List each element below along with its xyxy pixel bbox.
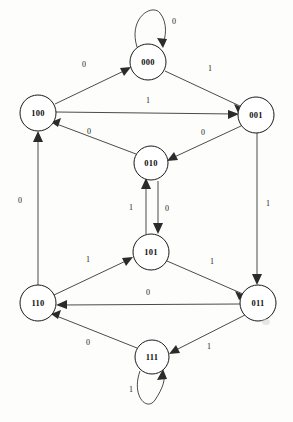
edge-100-to-001: [56, 110, 239, 119]
edge-110-to-100: [33, 131, 43, 285]
state-node-111-label: 111: [146, 352, 158, 362]
state-node-000-label: 000: [141, 57, 154, 67]
state-node-011-label: 011: [252, 298, 265, 308]
edge-label-000-001: 1: [208, 64, 212, 73]
edge-label-001-010: 0: [201, 128, 205, 137]
edge-label-011-111: 1: [207, 342, 211, 351]
edge-label-111-111: 1: [129, 385, 133, 394]
state-node-101[interactable]: 101: [133, 234, 169, 270]
edge-000-to-001: [165, 71, 245, 113]
edge-label-100-000: 0: [82, 60, 86, 69]
edge-001-to-011: [252, 133, 262, 285]
edge-101-to-010: [141, 178, 151, 234]
edge-000-to-000: [135, 10, 167, 48]
edge-010-to-101: [153, 181, 163, 234]
state-node-111[interactable]: 111: [135, 340, 169, 374]
edge-label-010-100: 0: [87, 127, 91, 136]
edge-110-to-101: [54, 257, 133, 295]
state-node-110-label: 110: [32, 298, 45, 308]
state-node-000[interactable]: 000: [130, 44, 166, 80]
state-transition-diagram: 000 100 001 010 101 110 011 111: [0, 0, 293, 422]
edge-label-011-110: 0: [146, 288, 150, 297]
edge-label-101-010: 1: [129, 203, 133, 212]
edge-label-001-011: 1: [266, 199, 270, 208]
state-node-010-label: 010: [144, 158, 157, 168]
state-node-001-label: 001: [249, 110, 262, 120]
edge-101-to-011: [167, 261, 246, 300]
edge-010-to-100: [51, 118, 136, 154]
edge-label-101-011: 1: [210, 257, 214, 266]
state-node-100-label: 100: [31, 108, 44, 118]
state-node-110[interactable]: 110: [20, 285, 56, 321]
scan-artifact-speck: [262, 319, 270, 325]
edge-011-to-110: [56, 300, 240, 309]
state-diagram-canvas: 000 100 001 010 101 110 011 111: [0, 0, 293, 422]
edge-label-110-101: 1: [86, 255, 90, 264]
edge-label-010-101: 0: [165, 204, 169, 213]
edge-label-100-001: 1: [146, 96, 150, 105]
state-node-011[interactable]: 011: [240, 285, 276, 321]
edge-100-to-000: [55, 67, 131, 104]
edge-111-to-110: [51, 310, 137, 348]
edge-label-110-100: 0: [18, 196, 22, 205]
state-node-100[interactable]: 100: [20, 95, 56, 131]
state-node-010[interactable]: 010: [134, 146, 168, 180]
edge-label-111-110: 0: [86, 338, 90, 347]
state-node-101-label: 101: [144, 247, 157, 257]
edge-label-000-000: 0: [172, 17, 176, 26]
state-node-001[interactable]: 001: [238, 97, 274, 133]
